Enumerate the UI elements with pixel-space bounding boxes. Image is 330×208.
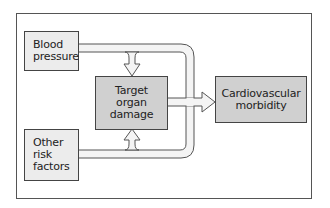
other-risk-factors-label: Other risk factors <box>33 137 70 173</box>
other-risk-factors-box: Other risk factors <box>24 129 79 181</box>
arrow-bp-to-tod <box>124 52 140 76</box>
cardiovascular-morbidity-label: Cardiovascular morbidity <box>221 88 300 112</box>
blood-pressure-label: Blood pressure <box>33 39 79 63</box>
target-organ-damage-label: Target organ damage <box>110 85 154 121</box>
target-organ-damage-box: Target organ damage <box>95 76 168 130</box>
cardiovascular-morbidity-box: Cardiovascular morbidity <box>215 76 307 123</box>
arrow-orf-to-tod <box>124 129 140 150</box>
blood-pressure-box: Blood pressure <box>24 31 79 71</box>
